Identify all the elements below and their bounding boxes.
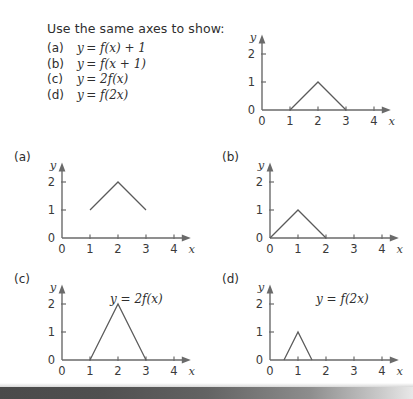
svg-text:3: 3	[350, 364, 357, 378]
curve-reference	[290, 82, 346, 110]
svg-text:y: y	[257, 158, 265, 172]
svg-text:0: 0	[248, 103, 255, 117]
chart-reference: 01234012xy	[240, 22, 410, 134]
equation-text-d: y = f(2x)	[77, 88, 128, 102]
equation-item-d: (d) y = f(2x)	[47, 88, 237, 104]
svg-text:2: 2	[248, 47, 255, 61]
chart-d: 01234012xy	[248, 272, 413, 384]
panel-reference: 01234012xy	[240, 22, 410, 134]
plot-b: 01234012xy	[248, 150, 413, 262]
svg-text:4: 4	[378, 364, 385, 378]
equation-item-b: (b) y = f(x + 1)	[47, 57, 237, 73]
svg-text:4: 4	[370, 114, 377, 128]
svg-text:1: 1	[286, 114, 293, 128]
svg-text:3: 3	[342, 114, 349, 128]
svg-text:2: 2	[48, 297, 55, 311]
equation-tag-a: (a)	[47, 41, 77, 55]
plot-a: 01234012xy	[40, 150, 210, 262]
svg-text:3: 3	[142, 364, 149, 378]
equation-tag-c: (c)	[47, 72, 77, 86]
chart-b: 01234012xy	[248, 150, 413, 262]
figure-page: Use the same axes to show: (a) y = f(x) …	[0, 0, 413, 399]
svg-text:1: 1	[48, 203, 55, 217]
chart-a: 01234012xy	[40, 150, 210, 262]
bottom-gradient-band	[0, 387, 413, 399]
panel-b: (b) 01234012xy	[222, 150, 402, 262]
svg-text:4: 4	[170, 242, 177, 256]
svg-text:y: y	[49, 158, 57, 172]
curve-a	[90, 182, 146, 210]
svg-text:2: 2	[256, 297, 263, 311]
equation-text-b: y = f(x + 1)	[77, 57, 146, 71]
svg-text:1: 1	[48, 325, 55, 339]
inline-equation-c: y = 2f(x)	[110, 292, 163, 306]
svg-text:0: 0	[266, 242, 273, 256]
prompt-title: Use the same axes to show:	[47, 21, 237, 36]
panel-label-a: (a)	[14, 150, 31, 164]
panel-a: (a) 01234012xy	[14, 150, 194, 262]
svg-text:4: 4	[170, 364, 177, 378]
svg-text:2: 2	[256, 175, 263, 189]
svg-text:4: 4	[378, 242, 385, 256]
svg-text:1: 1	[86, 364, 93, 378]
panel-d: (d) 01234012xy y = f(2x)	[222, 272, 412, 384]
svg-text:2: 2	[322, 364, 329, 378]
svg-text:0: 0	[58, 364, 65, 378]
svg-text:y: y	[257, 280, 265, 294]
curve-d	[284, 332, 312, 360]
svg-text:2: 2	[48, 175, 55, 189]
plot-d: 01234012xy	[248, 272, 413, 384]
chart-c: 01234012xy	[40, 272, 210, 384]
svg-text:1: 1	[294, 364, 301, 378]
svg-text:0: 0	[256, 231, 263, 245]
svg-text:0: 0	[58, 242, 65, 256]
svg-text:1: 1	[86, 242, 93, 256]
svg-text:3: 3	[350, 242, 357, 256]
plot-reference: 01234012xy	[240, 22, 410, 134]
inline-equation-d: y = f(2x)	[316, 292, 369, 306]
svg-text:x: x	[389, 114, 396, 128]
panel-c: (c) 01234012xy y = 2f(x)	[14, 272, 204, 384]
prompt-block: Use the same axes to show: (a) y = f(x) …	[47, 21, 237, 103]
equation-item-a: (a) y = f(x) + 1	[47, 41, 237, 57]
svg-text:1: 1	[256, 325, 263, 339]
svg-text:x: x	[397, 242, 404, 256]
panel-label-c: (c)	[14, 272, 30, 286]
svg-text:2: 2	[322, 242, 329, 256]
svg-text:x: x	[189, 364, 196, 378]
svg-text:3: 3	[142, 242, 149, 256]
svg-text:0: 0	[48, 231, 55, 245]
svg-text:0: 0	[266, 364, 273, 378]
svg-text:0: 0	[48, 353, 55, 367]
svg-text:2: 2	[314, 114, 321, 128]
curve-c	[90, 304, 146, 360]
svg-text:0: 0	[256, 353, 263, 367]
svg-text:x: x	[189, 242, 196, 256]
svg-text:2: 2	[114, 242, 121, 256]
svg-text:1: 1	[248, 75, 255, 89]
equation-list: (a) y = f(x) + 1 (b) y = f(x + 1) (c) y …	[47, 41, 237, 103]
panel-label-d: (d)	[222, 272, 239, 286]
equation-text-a: y = f(x) + 1	[77, 41, 146, 55]
svg-text:2: 2	[114, 364, 121, 378]
equation-tag-b: (b)	[47, 57, 77, 71]
svg-text:y: y	[49, 280, 57, 294]
svg-text:1: 1	[294, 242, 301, 256]
equation-text-c: y = 2f(x)	[77, 72, 128, 86]
plot-c: 01234012xy	[40, 272, 210, 384]
svg-text:y: y	[249, 30, 257, 44]
curve-b	[270, 210, 326, 238]
panel-label-b: (b)	[222, 150, 239, 164]
svg-text:0: 0	[258, 114, 265, 128]
equation-item-c: (c) y = 2f(x)	[47, 72, 237, 88]
svg-text:x: x	[397, 364, 404, 378]
equation-tag-d: (d)	[47, 88, 77, 102]
svg-text:1: 1	[256, 203, 263, 217]
